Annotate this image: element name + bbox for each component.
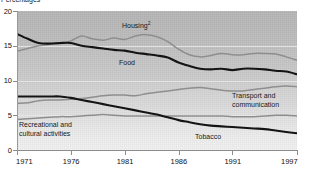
x-tick-1997	[297, 151, 298, 155]
series-label-transport-line2: communication	[232, 101, 279, 108]
x-tick-1986	[179, 151, 180, 155]
series-label-housing: Housing2	[122, 19, 150, 31]
y-tick-10	[13, 81, 17, 82]
x-tick-label-1991: 1991	[224, 157, 241, 166]
plot-area: Housing2 Food Transport and communicatio…	[17, 11, 297, 150]
x-tick-1981	[125, 151, 126, 155]
x-tick-1976	[71, 151, 72, 155]
y-tick-5	[13, 115, 17, 116]
series-label-transport-line1: Transport and	[232, 92, 275, 99]
y-axis-title: Percentages	[1, 0, 40, 3]
line-chart: Percentages Housing2 Food Transport and …	[0, 0, 309, 171]
x-tick-label-1997: 1997	[281, 157, 298, 166]
series-label-transport: Transport and communication	[232, 91, 279, 109]
series-line-food	[17, 34, 297, 74]
series-label-recreational-line1: Recreational and	[19, 121, 72, 128]
x-tick-label-1976: 1976	[63, 157, 80, 166]
y-tick-label-0: 0	[0, 146, 12, 155]
y-tick-label-5: 5	[0, 111, 12, 120]
y-tick-label-15: 15	[0, 41, 12, 50]
series-label-housing-text: Housing	[122, 22, 148, 29]
x-tick-label-1981: 1981	[117, 157, 134, 166]
series-label-food: Food	[119, 59, 135, 68]
series-label-recreational-line2: cultural activities	[19, 130, 70, 137]
y-tick-label-10: 10	[0, 76, 12, 85]
x-tick-label-1986: 1986	[171, 157, 188, 166]
series-label-tobacco: Tobacco	[195, 133, 221, 142]
y-tick-15	[13, 46, 17, 47]
x-tick-label-1971: 1971	[16, 157, 33, 166]
y-tick-20	[13, 11, 17, 12]
y-axis-line	[17, 11, 18, 151]
x-tick-1971	[17, 151, 18, 155]
y-tick-label-20: 20	[0, 7, 12, 16]
series-label-recreational: Recreational and cultural activities	[19, 120, 72, 138]
x-tick-1991	[232, 151, 233, 155]
series-label-housing-footnote: 2	[148, 20, 151, 26]
x-axis-line	[17, 150, 298, 151]
